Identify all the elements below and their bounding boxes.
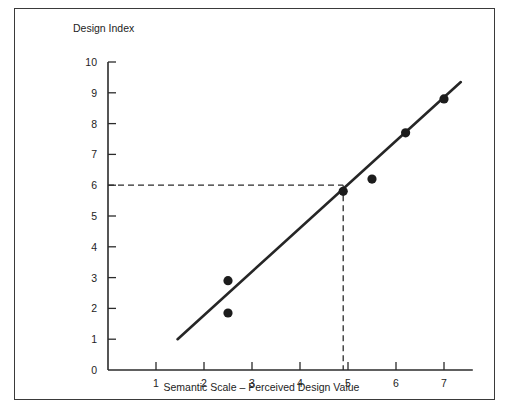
y-tick-label: 10: [85, 56, 97, 68]
chart-canvas: 0123456789101234567: [0, 0, 523, 415]
scatter-plot-chart: 0123456789101234567 Design Index Semanti…: [0, 0, 523, 415]
data-point-marker: [401, 128, 410, 137]
data-point-marker: [223, 308, 232, 317]
data-point-marker: [439, 94, 448, 103]
data-points: [223, 94, 448, 317]
y-tick-label: 4: [91, 241, 97, 253]
y-tick-label: 8: [91, 118, 97, 130]
y-axis-title: Design Index: [73, 22, 134, 34]
y-tick-label: 9: [91, 87, 97, 99]
y-tick-label: 7: [91, 148, 97, 160]
axis-ticks: 0123456789101234567: [85, 56, 447, 389]
data-point-marker: [339, 187, 348, 196]
y-tick-label: 0: [91, 364, 97, 376]
y-tick-label: 1: [91, 333, 97, 345]
data-point-marker: [223, 276, 232, 285]
trend-line: [178, 82, 461, 339]
y-tick-label: 2: [91, 302, 97, 314]
x-axis-title: Semantic Scale – Perceived Design Value: [0, 381, 523, 393]
y-tick-label: 3: [91, 272, 97, 284]
y-tick-label: 5: [91, 210, 97, 222]
y-tick-label: 6: [91, 179, 97, 191]
data-point-marker: [367, 174, 376, 183]
